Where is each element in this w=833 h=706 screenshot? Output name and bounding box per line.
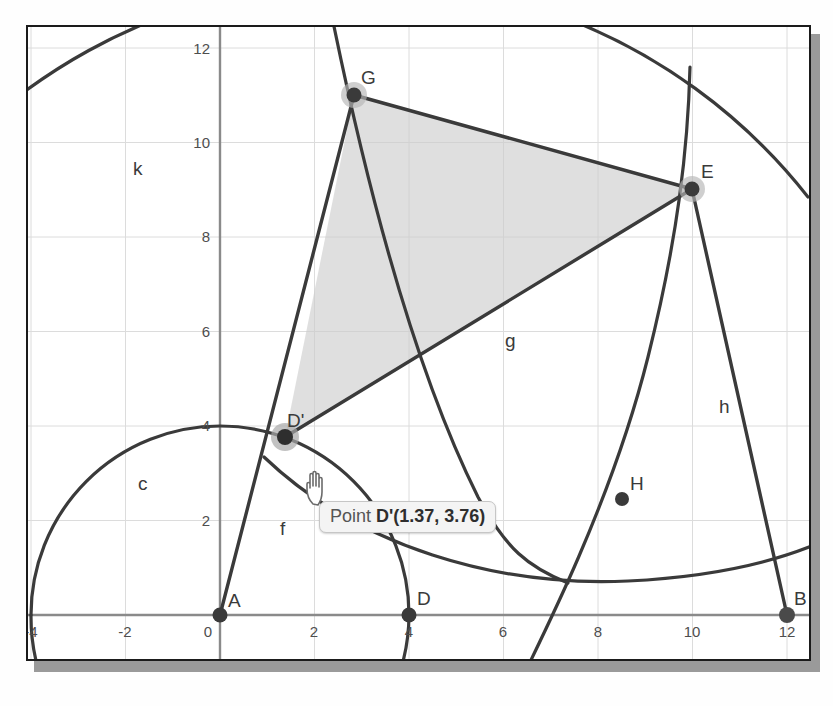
- tooltip-prefix: Point: [330, 506, 376, 526]
- y-tick-label: 10: [193, 134, 210, 151]
- point-G[interactable]: [347, 88, 362, 103]
- geometry-canvas-frame[interactable]: A B D D' E G H k c f g h: [26, 25, 811, 661]
- circle-c-lower2: [328, 615, 409, 659]
- y-tick-label: 6: [202, 323, 210, 340]
- curve-label-h: h: [719, 396, 730, 417]
- point-label-E: E: [701, 161, 714, 182]
- curve-label-f: f: [280, 518, 286, 539]
- point-label-H: H: [630, 473, 644, 494]
- point-D[interactable]: [402, 608, 417, 623]
- point-label-G: G: [361, 67, 376, 88]
- curve-label-g: g: [505, 330, 516, 351]
- point-label-A: A: [228, 590, 241, 611]
- point-H[interactable]: [615, 492, 629, 506]
- x-tick-label: 10: [684, 623, 701, 640]
- point-Dprime[interactable]: [277, 429, 293, 445]
- x-tick-label: 4: [405, 623, 413, 640]
- x-tick-label: 12: [779, 623, 796, 640]
- y-tick-labels: 2 4 6 8 10 12: [193, 40, 210, 529]
- point-label-Dprime: D': [287, 410, 304, 431]
- point-E[interactable]: [685, 182, 700, 197]
- shaded-triangle[interactable]: [285, 95, 692, 437]
- x-tick-label: 6: [499, 623, 507, 640]
- x-tick-label: -2: [118, 623, 131, 640]
- geometry-drawing[interactable]: A B D D' E G H k c f g h: [28, 27, 809, 659]
- y-tick-label: 4: [202, 417, 210, 434]
- geogebra-applet: A B D D' E G H k c f g h: [0, 0, 833, 706]
- point-tooltip: Point D'(1.37, 3.76): [319, 501, 496, 533]
- segment-h: [692, 189, 787, 615]
- x-tick-labels: -4 -2 0 2 4 6 8 10 12: [28, 623, 795, 640]
- y-tick-label: 2: [202, 512, 210, 529]
- x-tick-label: 2: [310, 623, 318, 640]
- y-tick-label: 12: [193, 40, 210, 57]
- y-tick-label: 8: [202, 228, 210, 245]
- point-label-D: D: [417, 588, 431, 609]
- curve-label-c: c: [138, 473, 148, 494]
- curve-label-k: k: [133, 158, 143, 179]
- point-B[interactable]: [779, 607, 795, 623]
- x-tick-label: 8: [594, 623, 602, 640]
- tooltip-value: D'(1.37, 3.76): [376, 506, 485, 526]
- x-tick-label: 0: [204, 623, 212, 640]
- point-A[interactable]: [213, 608, 228, 623]
- point-label-B: B: [794, 588, 807, 609]
- x-tick-label: -4: [28, 623, 38, 640]
